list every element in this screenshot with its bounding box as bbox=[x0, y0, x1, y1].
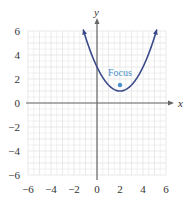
x-tick: 0 bbox=[94, 183, 100, 195]
y-axis-label: y bbox=[93, 6, 99, 18]
x-tick: 6 bbox=[163, 183, 169, 195]
x-tick: 2 bbox=[117, 183, 123, 195]
y-tick: 6 bbox=[15, 25, 21, 37]
focus-dot bbox=[118, 83, 122, 87]
x-tick: 4 bbox=[140, 183, 146, 195]
y-tick: 2 bbox=[15, 73, 21, 85]
y-tick: −4 bbox=[8, 145, 20, 157]
x-tick: −2 bbox=[68, 183, 80, 195]
focus-label: Focus bbox=[108, 67, 132, 78]
y-tick: 4 bbox=[15, 49, 21, 61]
y-tick: 0 bbox=[15, 97, 21, 109]
y-tick: −2 bbox=[8, 121, 20, 133]
x-tick: −4 bbox=[45, 183, 57, 195]
x-axis-label: x bbox=[177, 97, 183, 109]
x-tick-labels: −6 −4 −2 0 2 4 6 bbox=[22, 183, 169, 195]
parabola-chart: x y −6 −4 −2 0 2 4 6 6 4 2 0 −2 −4 −6 Fo… bbox=[0, 0, 191, 203]
y-tick-labels: 6 4 2 0 −2 −4 −6 bbox=[8, 25, 20, 181]
axes: x y bbox=[26, 6, 183, 180]
y-tick: −6 bbox=[8, 169, 20, 181]
x-tick: −6 bbox=[22, 183, 34, 195]
y-axis-arrow-icon bbox=[95, 18, 100, 24]
x-axis-arrow-icon bbox=[168, 101, 174, 106]
focus-point bbox=[118, 83, 122, 87]
